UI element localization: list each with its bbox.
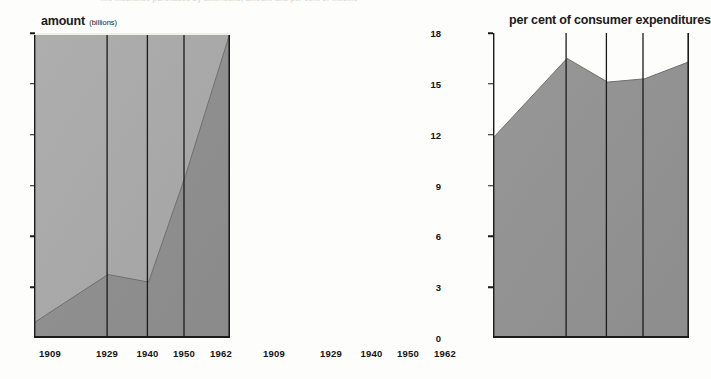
y-tick-label-per-cent-12: 12 bbox=[401, 129, 441, 140]
y-tick-mark-amount-60 bbox=[30, 32, 35, 34]
y-tick-mark-amount-50 bbox=[30, 83, 35, 85]
chart-title-amount-sub: (billions) bbox=[89, 18, 117, 27]
chart-title-amount-main: amount bbox=[41, 14, 85, 28]
y-tick-label-per-cent-3: 3 bbox=[401, 282, 441, 293]
y-tick-mark-amount-40 bbox=[30, 134, 35, 136]
y-tick-mark-per-cent-15 bbox=[488, 83, 493, 85]
y-tick-mark-per-cent-3 bbox=[488, 286, 493, 288]
x-tick-label-per-cent-1940: 1940 bbox=[361, 348, 383, 359]
x-tick-label-per-cent-1962: 1962 bbox=[434, 348, 456, 359]
x-tick-label-per-cent-1909: 1909 bbox=[263, 348, 285, 359]
chart-title-per-cent: per cent of consumer expenditures bbox=[509, 10, 711, 28]
chart-panel-per-cent: per cent of consumer expenditures bbox=[235, 0, 459, 379]
chart-panel-amount: amount (billions) bbox=[0, 0, 240, 379]
y-tick-mark-per-cent-9 bbox=[488, 185, 493, 187]
x-tick-label-per-cent-1929: 1929 bbox=[320, 348, 342, 359]
y-tick-mark-amount-10 bbox=[30, 286, 35, 288]
y-tick-mark-amount-30 bbox=[30, 185, 35, 187]
y-tick-label-per-cent-6: 6 bbox=[401, 231, 441, 242]
x-tick-label-amount-1950: 1950 bbox=[173, 348, 195, 359]
area-chart-amount-svg bbox=[34, 33, 230, 338]
chart-title-amount: amount (billions) bbox=[41, 11, 117, 29]
x-tick-label-amount-1962: 1962 bbox=[210, 348, 232, 359]
plot-area-amount bbox=[34, 33, 230, 338]
y-tick-label-per-cent-15: 15 bbox=[401, 78, 441, 89]
y-tick-mark-amount-20 bbox=[30, 236, 35, 238]
x-tick-label-amount-1909: 1909 bbox=[39, 348, 61, 359]
x-tick-label-amount-1929: 1929 bbox=[96, 348, 118, 359]
y-tick-label-per-cent-0: 0 bbox=[401, 333, 441, 344]
y-tick-label-per-cent-9: 9 bbox=[401, 180, 441, 191]
y-tick-mark-per-cent-18 bbox=[488, 32, 493, 34]
plot-area-per-cent bbox=[493, 33, 689, 338]
x-tick-label-amount-1940: 1940 bbox=[137, 348, 159, 359]
chart-title-per-cent-main: per cent of consumer expenditures bbox=[509, 13, 711, 27]
y-tick-mark-per-cent-6 bbox=[488, 236, 493, 238]
y-tick-mark-per-cent-12 bbox=[488, 134, 493, 136]
area-chart-per-cent-svg bbox=[493, 33, 689, 338]
x-tick-label-per-cent-1950: 1950 bbox=[397, 348, 419, 359]
y-tick-label-per-cent-18: 18 bbox=[401, 28, 441, 39]
